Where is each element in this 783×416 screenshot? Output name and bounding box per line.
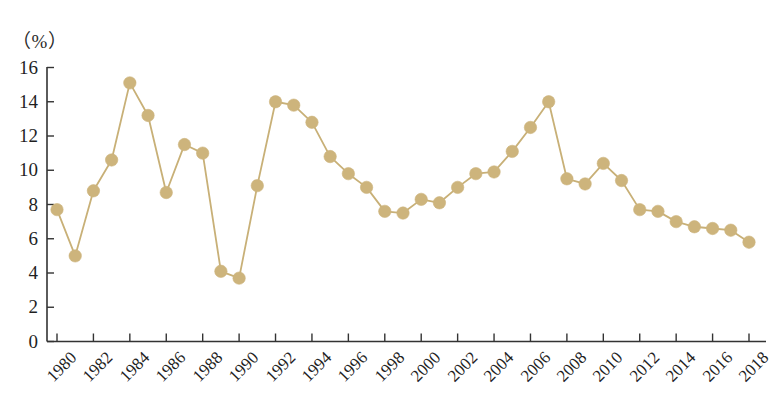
data-point-marker[interactable] [433, 197, 445, 209]
data-point-marker[interactable] [397, 207, 409, 219]
data-point-marker[interactable] [670, 215, 682, 227]
data-point-marker[interactable] [269, 96, 281, 108]
data-point-marker[interactable] [506, 145, 518, 157]
y-axis-tick-label: 0 [8, 331, 38, 353]
y-axis-tick-label: 16 [8, 57, 38, 79]
data-point-marker[interactable] [233, 272, 245, 284]
y-axis-tick-label: 6 [8, 228, 38, 250]
y-axis-tick-label: 8 [8, 194, 38, 216]
data-point-marker[interactable] [597, 157, 609, 169]
data-point-marker[interactable] [51, 203, 63, 215]
data-line [57, 83, 749, 278]
chart-page: （%） 0246810121416 1980198219841986198819… [0, 0, 783, 416]
data-point-marker[interactable] [306, 116, 318, 128]
data-point-marker[interactable] [124, 77, 136, 89]
axes-group [47, 67, 766, 342]
data-point-marker[interactable] [288, 99, 300, 111]
data-line-group [57, 83, 749, 278]
data-marker-group [51, 77, 755, 285]
data-point-marker[interactable] [634, 203, 646, 215]
y-axis-tick-label: 14 [8, 91, 38, 113]
data-point-marker[interactable] [725, 224, 737, 236]
data-point-marker[interactable] [615, 174, 627, 186]
data-point-marker[interactable] [251, 179, 263, 191]
data-point-marker[interactable] [324, 150, 336, 162]
data-point-marker[interactable] [488, 166, 500, 178]
data-point-marker[interactable] [215, 265, 227, 277]
data-point-marker[interactable] [379, 205, 391, 217]
y-axis-tick-label: 10 [8, 159, 38, 181]
data-point-marker[interactable] [542, 96, 554, 108]
data-point-marker[interactable] [743, 236, 755, 248]
data-point-marker[interactable] [652, 205, 664, 217]
data-point-marker[interactable] [579, 178, 591, 190]
data-point-marker[interactable] [451, 181, 463, 193]
y-axis-tick-label: 4 [8, 262, 38, 284]
data-point-marker[interactable] [196, 147, 208, 159]
data-point-marker[interactable] [160, 186, 172, 198]
data-point-marker[interactable] [142, 109, 154, 121]
data-point-marker[interactable] [688, 221, 700, 233]
data-point-marker[interactable] [342, 167, 354, 179]
y-axis-tick-label: 12 [8, 125, 38, 147]
data-point-marker[interactable] [561, 173, 573, 185]
y-axis-tick-label: 2 [8, 296, 38, 318]
data-point-marker[interactable] [178, 138, 190, 150]
data-point-marker[interactable] [69, 250, 81, 262]
data-point-marker[interactable] [706, 222, 718, 234]
data-point-marker[interactable] [415, 193, 427, 205]
data-point-marker[interactable] [87, 185, 99, 197]
data-point-marker[interactable] [470, 167, 482, 179]
data-point-marker[interactable] [524, 121, 536, 133]
data-point-marker[interactable] [360, 181, 372, 193]
data-point-marker[interactable] [105, 154, 117, 166]
